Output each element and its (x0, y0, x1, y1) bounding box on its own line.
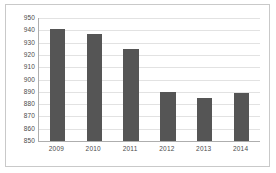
gridline (39, 129, 260, 130)
y-axis-tick-label: 900 (9, 76, 35, 83)
y-axis-tick-label: 890 (9, 89, 35, 96)
bar (87, 34, 102, 141)
figure-frame: 950940930920910900890880870860850 200920… (5, 4, 270, 167)
gridline (39, 55, 260, 56)
gridline (39, 30, 260, 31)
y-axis-tick-label: 950 (9, 15, 35, 22)
gridline (39, 92, 260, 93)
gridline (39, 43, 260, 44)
x-axis-tick-label: 2009 (49, 146, 64, 153)
x-axis-tick-labels: 200920102011201220132014 (38, 146, 260, 160)
gridline (39, 104, 260, 105)
bar (160, 92, 175, 141)
x-axis-tick-label: 2010 (86, 146, 101, 153)
y-axis-tick-label: 880 (9, 101, 35, 108)
y-axis-tick-label: 870 (9, 113, 35, 120)
chart-screenshot: 950940930920910900890880870860850 200920… (0, 0, 276, 173)
gridline (39, 67, 260, 68)
bar (50, 29, 65, 141)
x-axis-tick-label: 2012 (159, 146, 174, 153)
x-axis-tick-label: 2013 (196, 146, 211, 153)
y-axis-tick-labels: 950940930920910900890880870860850 (6, 18, 35, 142)
plot-area (38, 18, 260, 142)
y-axis-tick-label: 920 (9, 52, 35, 59)
y-axis-tick-label: 850 (9, 138, 35, 145)
y-axis-tick-label: 910 (9, 64, 35, 71)
y-axis-tick-label: 860 (9, 125, 35, 132)
bar (234, 93, 249, 141)
y-axis-tick-label: 940 (9, 27, 35, 34)
bar (123, 49, 138, 141)
gridline (39, 18, 260, 19)
y-axis-tick-label: 930 (9, 39, 35, 46)
bar (197, 98, 212, 141)
x-axis-tick-label: 2014 (233, 146, 248, 153)
gridline (39, 80, 260, 81)
x-axis-tick-label: 2011 (123, 146, 138, 153)
gridline (39, 116, 260, 117)
